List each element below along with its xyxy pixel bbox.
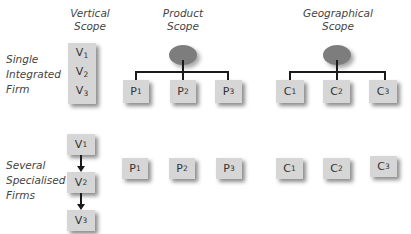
geo-box-c1-separate: C1 xyxy=(276,158,303,179)
product-box-p3-separate: P3 xyxy=(216,158,242,179)
row-label-single-firm: Single Integrated Firm xyxy=(6,52,61,97)
header-product-scope: Product Scope xyxy=(148,7,218,33)
header-text: Product xyxy=(148,7,218,20)
vertical-box-v2: V2 xyxy=(67,172,95,193)
header-text: Scope xyxy=(293,20,383,33)
row-text: Several xyxy=(6,158,65,173)
vertical-integrated-box: V1 V2 V3 xyxy=(68,43,96,104)
header-vertical-scope: Vertical Scope xyxy=(60,7,120,33)
v3-label: V3 xyxy=(76,83,88,102)
row-text: Integrated xyxy=(6,67,61,82)
row-text: Firms xyxy=(6,188,65,203)
vertical-box-v1: V1 xyxy=(67,134,95,155)
geo-box-c2: C2 xyxy=(323,80,350,103)
row-text: Firm xyxy=(6,82,61,97)
vertical-box-v3: V3 xyxy=(67,210,95,231)
product-box-p2-separate: P2 xyxy=(169,158,195,179)
header-text: Vertical xyxy=(60,7,120,20)
header-text: Geographical xyxy=(293,7,383,20)
header-geographical-scope: Geographical Scope xyxy=(293,7,383,33)
product-box-p2: P2 xyxy=(170,80,196,103)
v2-label: V2 xyxy=(76,64,88,83)
geo-box-c3: C3 xyxy=(369,80,397,103)
header-text: Scope xyxy=(148,20,218,33)
row-text: Specialised xyxy=(6,173,65,188)
geo-box-c2-separate: C2 xyxy=(323,158,350,179)
row-text: Single xyxy=(6,52,61,67)
geo-box-c1: C1 xyxy=(276,80,304,103)
header-text: Scope xyxy=(60,20,120,33)
v1-label: V1 xyxy=(76,45,88,64)
product-box-p1: P1 xyxy=(123,80,149,103)
product-box-p1-separate: P1 xyxy=(122,158,148,179)
product-box-p3: P3 xyxy=(215,80,242,103)
geo-box-c3-separate: C3 xyxy=(370,156,397,177)
row-label-several-firms: Several Specialised Firms xyxy=(6,158,65,203)
